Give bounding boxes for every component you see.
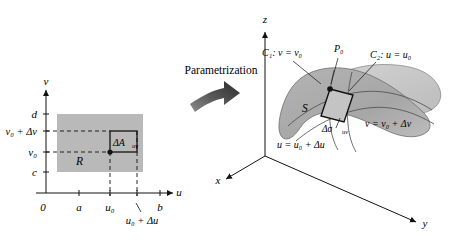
- surface-S-label: S: [302, 102, 308, 114]
- patch-sigma-label: Δσ: [321, 124, 333, 134]
- curve-C2-label: C₂: u = u₀: [370, 49, 412, 60]
- point-P0-label: P₀: [333, 43, 344, 54]
- u-label-u0: u₀: [105, 201, 115, 213]
- axis-x-label: x: [215, 174, 221, 186]
- parametrization-figure: v d v₀ + Δv v₀ c u 0 a u₀ b u₀ + Δu R ΔA…: [0, 0, 456, 241]
- axis-y-label: y: [422, 217, 428, 229]
- v-label-v0-delta: v₀ + Δv: [6, 126, 38, 137]
- u-label-u0-delta: u₀ + Δu: [126, 215, 159, 226]
- figure-canvas: v d v₀ + Δv v₀ c u 0 a u₀ b u₀ + Δu R ΔA…: [0, 0, 456, 241]
- parametrization-group: Parametrization: [185, 64, 258, 112]
- point-P0-dot: [327, 86, 333, 92]
- region-R-fill: [57, 114, 143, 172]
- axis-z-label: z: [262, 13, 268, 25]
- origin-label: 0: [40, 201, 46, 213]
- patch-sigma-subscript: uv: [342, 128, 348, 135]
- v-label-c: c: [32, 166, 37, 178]
- curved-arrow-right-icon: [190, 81, 240, 112]
- region-label: R: [75, 155, 83, 167]
- v-label-d: d: [32, 108, 38, 120]
- patch-area-subscript: uv: [132, 142, 138, 149]
- y-axis-line: [265, 156, 416, 222]
- curve-C1-label: C₁: v = v₀: [262, 47, 303, 58]
- u0-delta-leader: [136, 203, 141, 212]
- patch-area-label: ΔA: [112, 137, 126, 148]
- v-label-v0: v₀: [28, 146, 37, 158]
- corner-point-dot: [107, 149, 112, 154]
- edge-v-label: v = v₀ + Δv: [365, 118, 412, 129]
- x-axis-line: [226, 156, 265, 179]
- axis-u-label: u: [176, 186, 182, 198]
- u-label-b: b: [157, 201, 163, 213]
- u-label-a: a: [76, 201, 82, 213]
- parametrization-label: Parametrization: [185, 64, 258, 76]
- axis-v-label: v: [44, 75, 49, 87]
- surface-diagram: z x y C₁: v = v₀ P₀ C₂: u = u₀ S Δσ uv v…: [215, 13, 441, 229]
- uv-plane-diagram: v d v₀ + Δv v₀ c u 0 a u₀ b u₀ + Δu R ΔA…: [6, 75, 183, 226]
- edge-u-label: u = u₀ + Δu: [277, 139, 325, 150]
